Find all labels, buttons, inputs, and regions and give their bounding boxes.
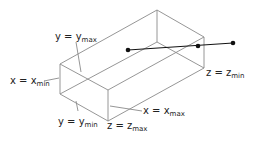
box-edges xyxy=(44,10,204,121)
endpoint-dot xyxy=(126,48,131,53)
label-x-min: x = xmin xyxy=(10,75,50,88)
label-z-min: z = zmin xyxy=(206,67,244,80)
clipping-box-diagram: y = ymax x = xmin y = ymin z = zmax x = … xyxy=(0,0,253,142)
line-segment xyxy=(126,41,236,53)
label-y-min: y = ymin xyxy=(58,116,98,129)
label-z-max: z = zmax xyxy=(107,120,148,133)
label-x-max: x = xmax xyxy=(143,105,185,118)
endpoint-dot xyxy=(231,41,236,46)
intersection-dot xyxy=(196,44,201,49)
